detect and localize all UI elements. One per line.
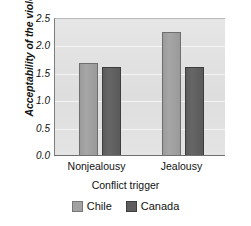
bar-canada-jealousy [185,67,204,156]
x-category-label-jealousy: Jealousy [139,160,224,172]
chart-legend: Chile Canada [0,200,251,212]
bar-chile-jealousy [162,32,181,156]
y-tick-label-3: 1.5 [22,67,50,78]
plot-area [54,18,225,156]
legend-item-chile: Chile [72,200,112,212]
x-category-label-nonjealousy: Nonjealousy [54,160,139,172]
legend-label-canada: Canada [141,200,180,212]
y-axis-tick-labels: 0.0 0.5 1.0 1.5 2.0 2.5 [22,18,52,155]
y-tick-label-4: 2.0 [22,40,50,51]
y-tick-label-5: 2.5 [22,13,50,24]
legend-label-chile: Chile [87,200,112,212]
x-axis-line [54,155,225,156]
legend-swatch-chile-icon [72,201,83,212]
legend-swatch-canada-icon [126,201,137,212]
bar-canada-nonjealousy [102,67,121,156]
legend-item-canada: Canada [126,200,180,212]
y-tick-label-2: 1.0 [22,95,50,106]
y-tick-label-1: 0.5 [22,122,50,133]
bar-chile-nonjealousy [79,63,98,156]
x-axis-title: Conflict trigger [0,179,251,191]
y-tick-label-0: 0.0 [22,150,50,161]
bar-chart-figure: Acceptability of the violence 0.0 0.5 1.… [0,0,251,226]
gridline-2-0 [55,46,225,47]
